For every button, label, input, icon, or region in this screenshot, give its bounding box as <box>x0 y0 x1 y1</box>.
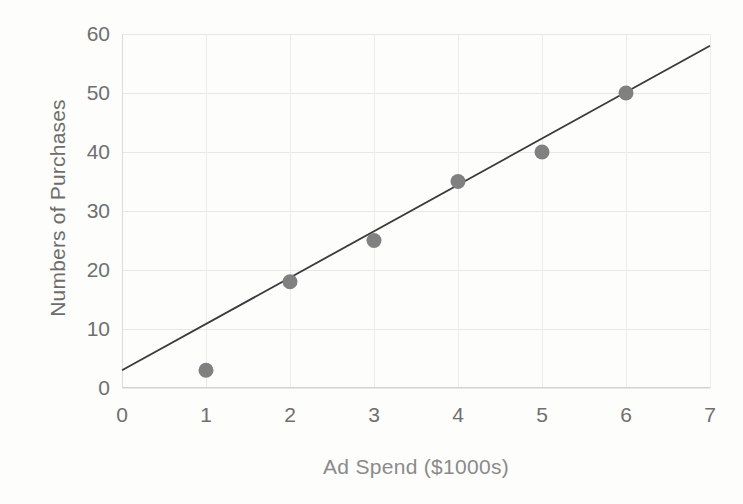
gridline-horizontal <box>122 388 710 389</box>
y-tick-label: 10 <box>64 318 110 339</box>
x-tick-label: 2 <box>270 404 310 425</box>
data-point <box>283 274 298 289</box>
gridline-vertical <box>710 34 711 388</box>
x-tick-label: 3 <box>354 404 394 425</box>
x-tick-label: 1 <box>186 404 226 425</box>
data-point <box>199 363 214 378</box>
y-tick-label: 40 <box>64 141 110 162</box>
scatter-chart-figure: Numbers of Purchases 0102030405060 01234… <box>0 0 743 504</box>
plot-area <box>122 34 710 388</box>
y-tick-label: 50 <box>64 82 110 103</box>
data-point <box>535 145 550 160</box>
y-tick-label: 0 <box>64 377 110 398</box>
data-layer <box>122 34 710 388</box>
x-tick-label: 6 <box>606 404 646 425</box>
y-tick-label: 20 <box>64 259 110 280</box>
x-axis-tick-labels: 01234567 <box>0 404 743 434</box>
x-tick-label: 0 <box>102 404 142 425</box>
x-tick-label: 7 <box>690 404 730 425</box>
x-tick-label: 4 <box>438 404 478 425</box>
data-point <box>451 174 466 189</box>
data-point <box>619 86 634 101</box>
y-tick-label: 60 <box>64 23 110 44</box>
data-point <box>367 233 382 248</box>
y-tick-label: 30 <box>64 200 110 221</box>
x-axis-title: Ad Spend ($1000s) <box>122 455 710 479</box>
data-point-markers <box>199 86 634 378</box>
x-tick-label: 5 <box>522 404 562 425</box>
